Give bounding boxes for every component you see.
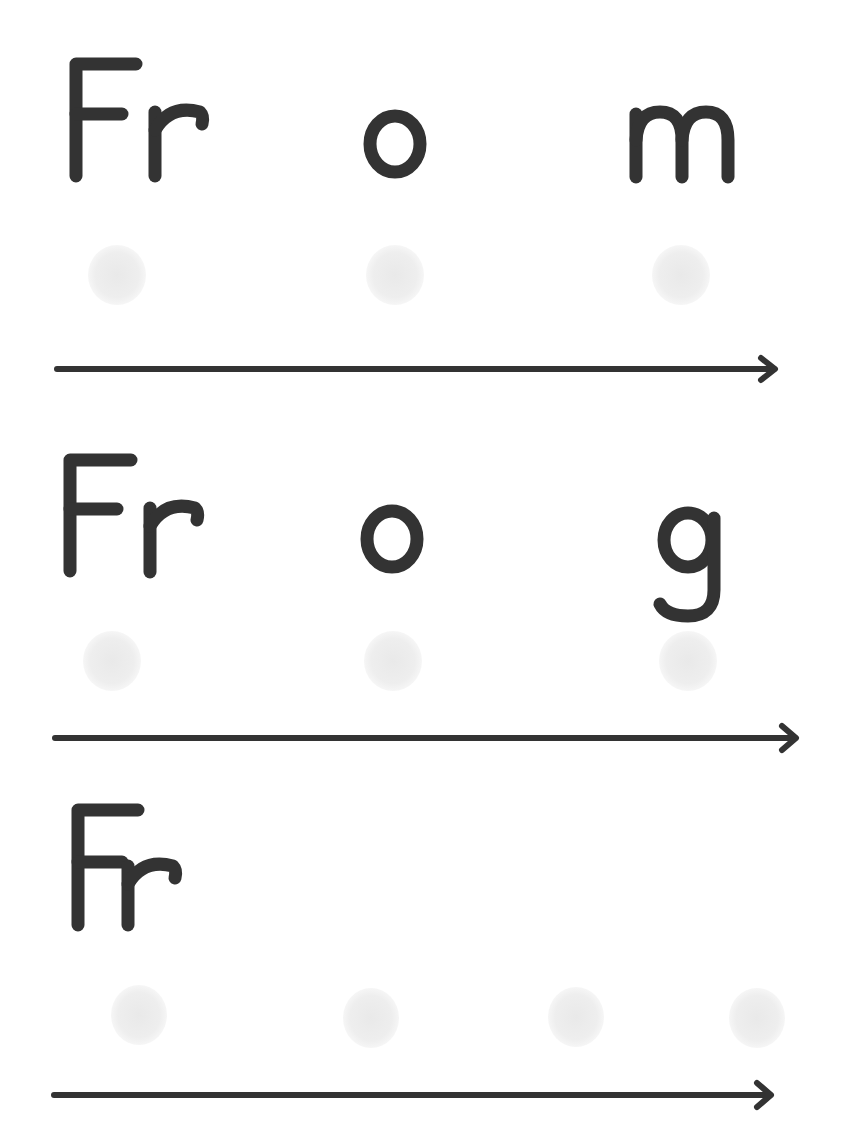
row-3-glyphs: [0, 0, 847, 1129]
blending-worksheet: From Fr o m Frog Fr o g Front Fr o n t: [0, 0, 847, 1129]
